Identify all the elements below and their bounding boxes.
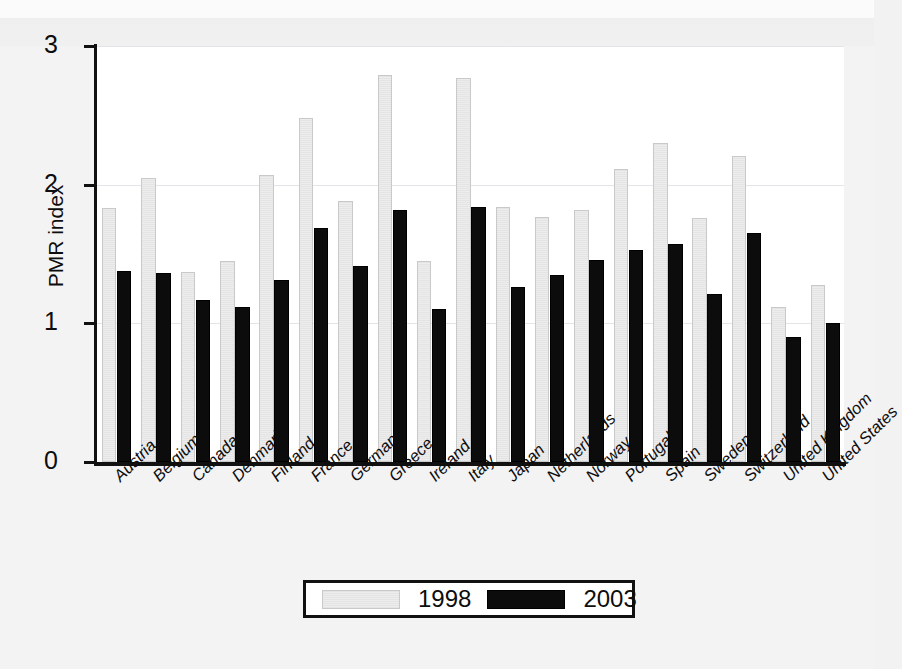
bar-2003 [471,207,486,462]
bar-1998 [417,261,432,462]
bar-1998 [220,261,235,462]
bar-2003 [393,210,408,462]
bar-2003 [196,300,211,462]
bar-1998 [732,156,747,462]
bar-1998 [378,75,393,462]
bar-1998 [456,78,471,462]
chart-legend: 19982003 [303,580,635,618]
y-axis-tick [84,322,95,325]
bar-2003 [511,287,526,462]
bar-1998 [574,210,589,462]
legend-swatch-2003 [487,590,565,609]
y-axis-tick [84,461,95,464]
bar-1998 [141,178,156,462]
legend-swatch-1998 [322,590,400,609]
bar-2003 [550,275,565,462]
bar-2003 [707,294,722,462]
y-axis-tick-label: 3 [10,30,58,59]
bar-1998 [496,207,511,462]
bar-2003 [432,309,447,462]
bar-1998 [102,208,117,462]
bar-1998 [811,285,826,462]
bar-2003 [274,280,289,462]
bar-1998 [338,201,353,462]
bar-1998 [771,307,786,462]
plot-inner [96,46,844,462]
y-axis-title: PMR index [44,136,68,336]
bar-2003 [314,228,329,462]
bar-2003 [668,244,683,462]
bar-2003 [235,307,250,462]
x-axis-line [94,462,846,466]
bar-2003 [826,323,841,462]
y-axis-tick-label: 0 [10,446,58,475]
bar-2003 [117,271,132,462]
bar-2003 [589,260,604,462]
bar-1998 [181,272,196,462]
bar-1998 [299,118,314,462]
bar-2003 [629,250,644,462]
bar-1998 [614,169,629,462]
gridline [96,46,844,47]
bar-2003 [353,266,368,462]
bar-1998 [692,218,707,462]
y-axis-tick [84,45,95,48]
bar-1998 [259,175,274,462]
bar-2003 [786,337,801,462]
legend-label-1998: 1998 [418,585,471,613]
bar-1998 [535,217,550,462]
bar-2003 [156,273,171,462]
y-axis-line [94,44,97,464]
y-axis-tick [84,184,95,187]
plot-area [96,46,844,462]
legend-label-2003: 2003 [583,585,636,613]
legend-entry-1998: 1998 [306,585,471,613]
legend-entry-2003: 2003 [471,585,636,613]
bar-1998 [653,143,668,462]
bar-2003 [747,233,762,462]
